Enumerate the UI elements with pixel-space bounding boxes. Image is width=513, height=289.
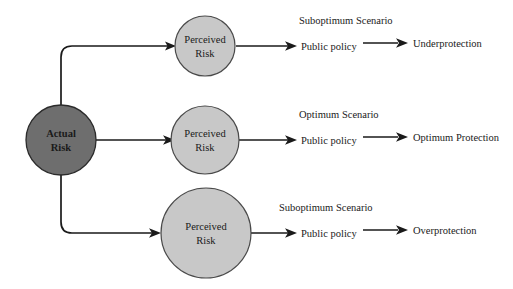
- node-perceived-risk-middle: [171, 106, 239, 174]
- node-actual-risk-label-line2: Risk: [51, 142, 72, 153]
- policy-label-middle: Public policy: [301, 135, 357, 146]
- outcome-label-middle: Optimum Protection: [413, 132, 500, 143]
- outcome-label-bottom: Overprotection: [413, 225, 477, 236]
- scenario-label-middle: Optimum Scenario: [299, 109, 379, 120]
- policy-label-bottom: Public policy: [301, 228, 357, 239]
- diagram-canvas: Actual Risk Perceived Risk Perceived Ris…: [0, 0, 513, 289]
- node-actual-risk: [26, 105, 96, 175]
- connector-actual-to-perceived-bottom: [61, 174, 152, 233]
- node-perceived-risk-top-label-line1: Perceived: [184, 34, 226, 45]
- node-actual-risk-label-line1: Actual: [46, 128, 76, 139]
- node-perceived-risk-bottom-label-line2: Risk: [196, 235, 216, 246]
- node-perceived-risk-top-label-line2: Risk: [195, 48, 215, 59]
- node-perceived-risk-top: [175, 16, 235, 76]
- node-perceived-risk-bottom-label-line1: Perceived: [185, 221, 227, 232]
- policy-label-top: Public policy: [301, 41, 357, 52]
- node-perceived-risk-bottom: [161, 188, 251, 278]
- connector-actual-to-perceived-top: [61, 46, 168, 106]
- risk-perception-diagram: Actual Risk Perceived Risk Perceived Ris…: [0, 0, 513, 289]
- node-perceived-risk-middle-label-line2: Risk: [195, 142, 215, 153]
- scenario-label-bottom: Suboptimum Scenario: [279, 202, 373, 213]
- scenario-label-top: Suboptimum Scenario: [299, 15, 393, 26]
- node-perceived-risk-middle-label-line1: Perceived: [184, 128, 226, 139]
- outcome-label-top: Underprotection: [413, 38, 483, 49]
